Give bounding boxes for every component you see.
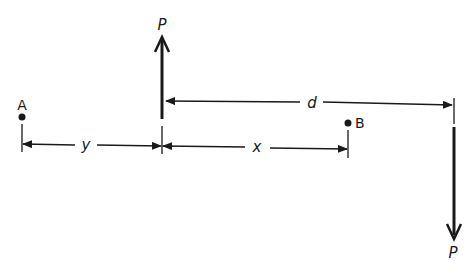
dimension-label-y: y bbox=[81, 136, 92, 154]
point-a-label: A bbox=[17, 97, 27, 113]
point-a-dot bbox=[19, 114, 26, 121]
dimension-label-d: d bbox=[307, 94, 317, 112]
force-couple-diagram: P d P A y x B bbox=[0, 0, 474, 278]
dimension-y bbox=[23, 144, 161, 146]
point-b-dot bbox=[345, 120, 352, 127]
force-arrow-down bbox=[447, 127, 461, 239]
force-arrow-up bbox=[155, 37, 169, 119]
force-label-up: P bbox=[157, 16, 167, 34]
force-label-down: P bbox=[448, 244, 458, 262]
dimension-label-x: x bbox=[252, 138, 262, 156]
point-b-label: B bbox=[355, 115, 365, 131]
